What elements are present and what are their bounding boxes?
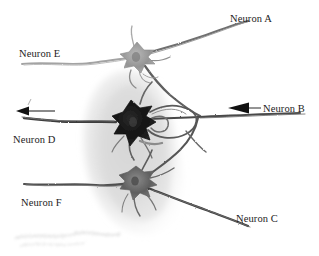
figure-canvas: Neuron A Neuron E Neuron B Neuron D Neur… xyxy=(0,0,319,256)
label-neuron-f: Neuron F xyxy=(21,198,62,209)
outgoing-arrow-left xyxy=(16,99,55,116)
label-neuron-d: Neuron D xyxy=(13,135,56,146)
incoming-arrow-neuron-b xyxy=(228,103,261,114)
neuron-a-process xyxy=(147,21,248,53)
label-neuron-a: Neuron A xyxy=(230,14,272,25)
film-smudge xyxy=(16,233,120,246)
label-neuron-e: Neuron E xyxy=(19,49,60,60)
label-neuron-c: Neuron C xyxy=(236,214,278,225)
label-neuron-b: Neuron B xyxy=(263,104,305,115)
